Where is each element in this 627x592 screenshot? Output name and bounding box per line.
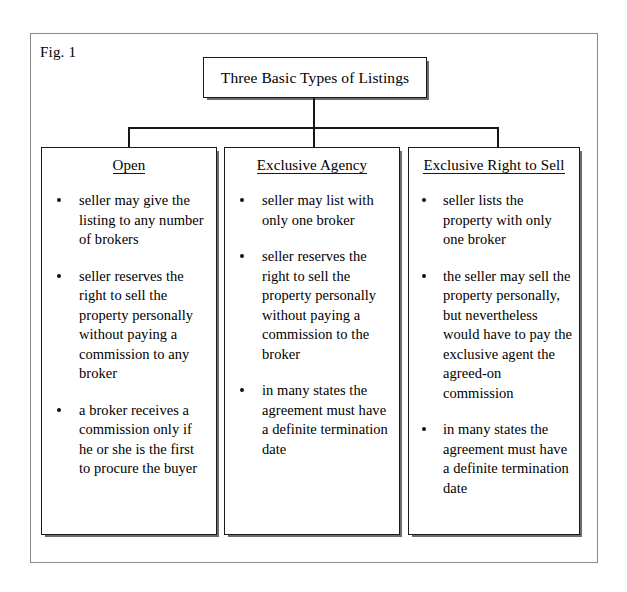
- list-item: seller lists the property with only one …: [409, 191, 579, 250]
- column-heading-exclusive-agency-text: Exclusive Agency: [257, 157, 367, 174]
- connector-drop-open: [128, 127, 130, 147]
- list-item: a broker receives a commission only if h…: [42, 401, 216, 479]
- column-heading-exclusive-agency: Exclusive Agency: [225, 157, 399, 174]
- column-heading-exclusive-right-to-sell-text: Exclusive Right to Sell: [423, 157, 564, 174]
- list-item: seller reserves the right to sell the pr…: [42, 267, 216, 384]
- list-item: the seller may sell the property persona…: [409, 267, 579, 404]
- connector-horizontal-bus: [128, 127, 499, 129]
- diagram-title-text: Three Basic Types of Listings: [221, 69, 409, 87]
- bullet-list-open: seller may give the listing to any numbe…: [42, 191, 216, 479]
- diagram-title-box: Three Basic Types of Listings: [203, 57, 427, 98]
- column-exclusive-right-to-sell: Exclusive Right to Sell seller lists the…: [408, 147, 580, 535]
- bullet-list-exclusive-agency: seller may list with only one broker sel…: [225, 191, 399, 459]
- list-item: in many states the agreement must have a…: [409, 420, 579, 498]
- connector-vertical-stem: [313, 98, 315, 147]
- column-exclusive-agency: Exclusive Agency seller may list with on…: [224, 147, 400, 535]
- list-item: seller reserves the right to sell the pr…: [225, 247, 399, 364]
- connector-drop-exclusive-right: [497, 127, 499, 147]
- figure-diagram: Fig. 1 Three Basic Types of Listings Ope…: [0, 0, 627, 592]
- column-heading-open: Open: [42, 157, 216, 174]
- list-item: in many states the agreement must have a…: [225, 381, 399, 459]
- list-item: seller may list with only one broker: [225, 191, 399, 230]
- column-heading-exclusive-right-to-sell: Exclusive Right to Sell: [409, 157, 579, 174]
- list-item: seller may give the listing to any numbe…: [42, 191, 216, 250]
- figure-caption-label: Fig. 1: [40, 44, 76, 61]
- column-open: Open seller may give the listing to any …: [41, 147, 217, 535]
- bullet-list-exclusive-right-to-sell: seller lists the property with only one …: [409, 191, 579, 498]
- column-heading-open-text: Open: [113, 157, 146, 174]
